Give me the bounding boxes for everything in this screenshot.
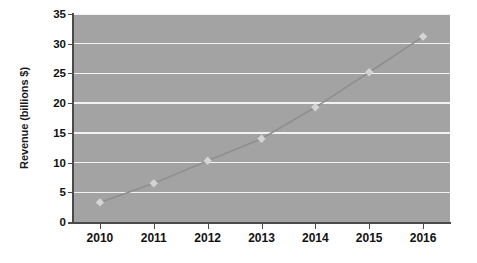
x-tick-mark — [208, 223, 209, 229]
y-tick-label: 20 — [34, 97, 66, 109]
data-point-marker — [257, 135, 265, 143]
plot-area — [73, 14, 450, 222]
y-axis-tick-labels: 05101520253035 — [34, 14, 66, 222]
x-tick-mark — [100, 223, 101, 229]
y-tick-label: 0 — [34, 216, 66, 228]
data-point-marker — [203, 157, 211, 165]
x-tick-label: 2014 — [285, 231, 345, 245]
x-tick-mark — [315, 223, 316, 229]
y-tick-label: 10 — [34, 157, 66, 169]
series-line — [100, 37, 423, 203]
data-point-marker — [311, 103, 319, 111]
y-tick-label: 35 — [34, 8, 66, 20]
y-tick-label: 15 — [34, 127, 66, 139]
y-tick-label: 25 — [34, 67, 66, 79]
x-tick-label: 2012 — [178, 231, 238, 245]
y-tick-label: 30 — [34, 38, 66, 50]
data-point-marker — [150, 179, 158, 187]
x-tick-label: 2010 — [70, 231, 130, 245]
x-tick-mark — [262, 223, 263, 229]
x-tick-mark — [154, 223, 155, 229]
y-axis-line — [72, 13, 74, 223]
x-tick-mark — [369, 223, 370, 229]
x-tick-mark — [423, 223, 424, 229]
series-markers — [96, 32, 428, 206]
x-tick-label: 2013 — [232, 231, 292, 245]
x-tick-label: 2011 — [124, 231, 184, 245]
series-revenue — [73, 14, 450, 222]
y-tick-label: 5 — [34, 186, 66, 198]
data-point-marker — [419, 32, 427, 40]
x-tick-label: 2015 — [339, 231, 399, 245]
x-tick-label: 2016 — [393, 231, 453, 245]
y-axis-title: Revenue (billions $) — [18, 8, 34, 228]
data-point-marker — [96, 198, 104, 206]
revenue-line-chart: Revenue (billions $) 05101520253035 2010… — [0, 0, 477, 263]
data-point-marker — [365, 68, 373, 76]
x-axis-line — [68, 222, 451, 224]
